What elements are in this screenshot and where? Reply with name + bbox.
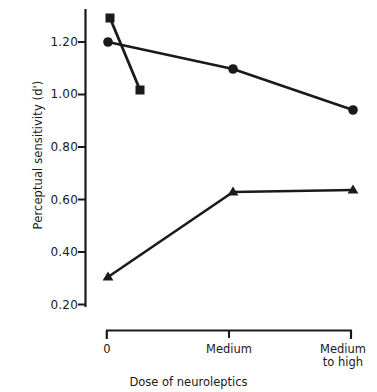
x-tick-label-medium-to-high: Medium to high (312, 343, 374, 369)
x-axis-title: Dose of neuroleptics (0, 375, 377, 389)
square-series-line (110, 18, 140, 90)
square-marker-point-2 (136, 86, 145, 95)
chart-figure: Perceptual sensitivity (d') 1.20 1.00 0.… (0, 0, 377, 392)
circle-series-line (108, 42, 353, 110)
square-marker-point-1 (106, 14, 115, 23)
plot-canvas (0, 0, 377, 392)
x-tick-label-0: 0 (92, 343, 122, 356)
circle-marker-point-2 (228, 64, 238, 74)
circle-marker-point-1 (103, 37, 113, 47)
x-tick-label-medium: Medium (189, 343, 269, 356)
triangle-series-line (108, 190, 353, 277)
circle-marker-point-3 (348, 105, 358, 115)
x-tick-label-line-2: to high (312, 356, 374, 369)
